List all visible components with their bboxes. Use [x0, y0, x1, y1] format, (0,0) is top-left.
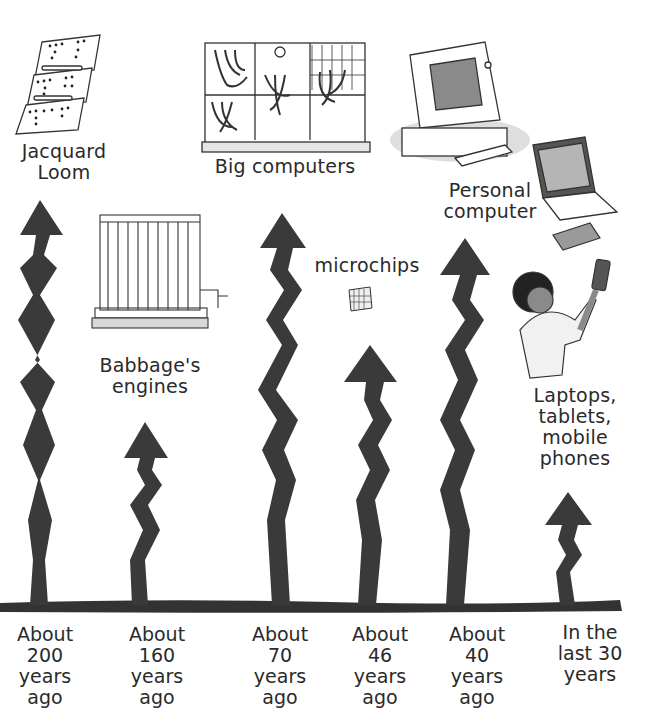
label-line: ago [0, 687, 90, 708]
label-line: 40 [432, 645, 522, 666]
label-line: ago [235, 687, 325, 708]
label-line: mobile [525, 427, 625, 448]
punch-card-icon [16, 35, 100, 134]
label-line: Big computers [205, 156, 365, 177]
zigzag-arrow-icon [440, 238, 490, 605]
label-line: years [335, 666, 425, 687]
label-line: phones [525, 448, 625, 469]
invention-label-personal-computer: Personal computer [440, 180, 540, 222]
label-line: 46 [335, 645, 425, 666]
desktop-computer-icon [390, 42, 530, 166]
label-line: Jacquard [14, 141, 114, 162]
zigzag-arrow-icon [258, 213, 306, 605]
difference-engine-icon [92, 215, 228, 328]
label-line: years [432, 666, 522, 687]
invention-label-babbages-engines: Babbage's engines [90, 355, 210, 397]
zigzag-arrow-icon [124, 422, 168, 605]
timeline-label-last-30-years: In the last 30 years [545, 622, 635, 685]
timeline-baseline [0, 600, 622, 613]
label-line: About [235, 624, 325, 645]
timeline-label-40-years: About 40 years ago [432, 624, 522, 708]
timeline-label-160-years: About 160 years ago [112, 624, 202, 708]
microchip-icon [349, 287, 372, 311]
label-line: last 30 [545, 643, 635, 664]
label-line: Personal [440, 180, 540, 201]
label-line: ago [432, 687, 522, 708]
label-line: In the [545, 622, 635, 643]
label-line: Loom [14, 162, 114, 183]
label-line: engines [90, 376, 210, 397]
label-line: About [335, 624, 425, 645]
timeline-illustration: Jacquard Loom Babbage's engines Big comp… [0, 0, 655, 711]
label-line: Laptops, [525, 385, 625, 406]
mainframe-icon [202, 43, 370, 152]
invention-label-big-computers: Big computers [205, 156, 365, 177]
zigzag-arrow-icon [344, 345, 397, 605]
zigzag-arrow-icon [18, 200, 63, 605]
timeline-label-46-years: About 46 years ago [335, 624, 425, 708]
label-line: About [0, 624, 90, 645]
label-line: 70 [235, 645, 325, 666]
invention-label-microchips: microchips [312, 255, 422, 276]
invention-label-mobile-devices: Laptops, tablets, mobile phones [525, 385, 625, 469]
label-line: About [112, 624, 202, 645]
label-line: 200 [0, 645, 90, 666]
label-line: years [235, 666, 325, 687]
label-line: ago [112, 687, 202, 708]
timeline-label-200-years: About 200 years ago [0, 624, 90, 708]
label-line: years [112, 666, 202, 687]
label-line: About [432, 624, 522, 645]
invention-label-jacquard-loom: Jacquard Loom [14, 141, 114, 183]
label-line: years [545, 664, 635, 685]
label-line: ago [335, 687, 425, 708]
label-line: microchips [312, 255, 422, 276]
tablet-icon [553, 223, 600, 250]
timeline-label-70-years: About 70 years ago [235, 624, 325, 708]
label-line: tablets, [525, 406, 625, 427]
label-line: computer [440, 201, 540, 222]
person-with-phone-icon [513, 259, 610, 378]
label-line: 160 [112, 645, 202, 666]
zigzag-arrow-icon [545, 492, 592, 605]
label-line: Babbage's [90, 355, 210, 376]
laptop-icon [533, 137, 617, 220]
label-line: years [0, 666, 90, 687]
